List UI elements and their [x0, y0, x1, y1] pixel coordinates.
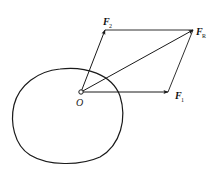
rigid-body-outline	[13, 68, 123, 163]
vector-f2-arrow	[81, 30, 105, 92]
force-diagram: O F 1 F 2 F R	[0, 0, 217, 177]
vector-fr-arrow	[81, 30, 193, 92]
f2-label: F 2	[102, 16, 112, 29]
fr-label: F R	[195, 26, 206, 39]
svg-text:R: R	[202, 33, 206, 39]
origin-label: O	[76, 97, 83, 108]
f1-label: F 1	[174, 90, 184, 103]
svg-text:1: 1	[181, 97, 184, 103]
parallelogram-right-edge	[168, 30, 193, 92]
svg-text:2: 2	[109, 23, 112, 29]
origin-point	[79, 90, 83, 94]
